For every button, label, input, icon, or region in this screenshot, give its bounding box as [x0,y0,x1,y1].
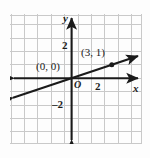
y-axis-tick-label-2: 2 [62,40,68,51]
y-axis-label: y [63,13,68,24]
point-label-three-one: (3, 1) [81,47,105,58]
linear-function-line [13,56,138,98]
y-axis-tick-label-negative-2: –2 [52,99,63,110]
data-point-marker [109,62,114,67]
coordinate-plane-figure: 2 –2 2 O (0, 0) (3, 1) x y [0,0,150,158]
x-axis-tick-label-2: 2 [95,81,101,92]
point-label-origin: (0, 0) [36,61,60,72]
x-axis-label: x [133,83,139,94]
origin-label: O [74,80,81,90]
